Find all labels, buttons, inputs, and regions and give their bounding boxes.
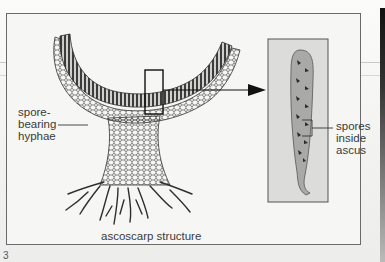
ascocarp-diagram	[0, 0, 385, 262]
figure-caption: ascoscarp structure	[101, 230, 201, 242]
root-hyphae	[66, 182, 192, 224]
figure-number: 3	[3, 250, 9, 261]
label-spore-bearing-hyphae: spore- bearing hyphae	[18, 106, 56, 142]
label-spores-inside-ascus: spores inside ascus	[336, 120, 371, 156]
ascocarp-stalk	[100, 116, 170, 185]
